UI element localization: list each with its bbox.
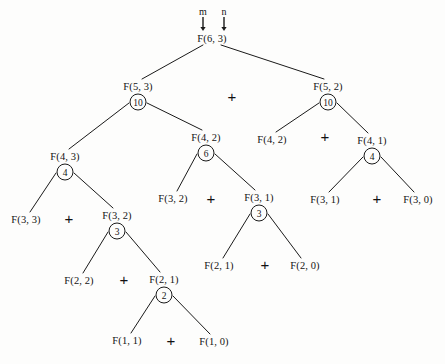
tree-node-label: F(3, 2) [158, 193, 187, 204]
node-value-circle: 10 [130, 94, 147, 111]
tree-node-label: F(3, 0) [403, 194, 432, 205]
n-arrow [221, 17, 226, 31]
tree-node-label: F(2, 2) [64, 275, 93, 286]
node-value-circle: 4 [57, 164, 74, 181]
tree-node-label: F(2, 1) [204, 260, 233, 271]
plus-n6: + [373, 191, 382, 206]
tree-node-label: F(4, 3) [50, 151, 79, 162]
tree-node-label: F(3, 2) [102, 210, 131, 221]
node-value-circle: 4 [364, 148, 381, 165]
tree-node-label: F(4, 2) [257, 134, 286, 145]
tree-node-label: F(5, 2) [313, 81, 342, 92]
plus-n3: + [65, 211, 74, 226]
tree-node-label: F(1, 1) [112, 335, 141, 346]
m-arrow [200, 17, 205, 31]
plus-n2: + [321, 129, 330, 144]
recursion-tree-diagram: mn F(6, 3)F(5, 3)10F(5, 2)10F(4, 3)4F(4,… [0, 0, 445, 364]
tree-node-label: F(3, 3) [11, 214, 40, 225]
plus-n10: + [261, 257, 270, 272]
node-value-circle: 3 [109, 223, 126, 240]
node-value-circle: 10 [320, 94, 337, 111]
arrow-svg-layer [0, 0, 445, 364]
tree-node-label: F(4, 2) [191, 132, 220, 143]
tree-node-label: F(5, 3) [123, 81, 152, 92]
plus-n14: + [167, 333, 176, 348]
node-value-circle: 2 [156, 287, 173, 304]
node-value-circle: 6 [198, 145, 215, 162]
tree-node-label: F(4, 1) [357, 135, 386, 146]
tree-node-label: F(2, 0) [290, 260, 319, 271]
plus-n8: + [120, 272, 129, 287]
tree-node-label: F(3, 1) [310, 194, 339, 205]
tree-node-label: F(3, 1) [244, 192, 273, 203]
tree-node-label: F(1, 0) [199, 336, 228, 347]
node-value-circle: 3 [251, 205, 268, 222]
tree-node-label: F(6, 3) [197, 33, 226, 44]
plus-n1: + [207, 191, 216, 206]
plus-root: + [228, 89, 237, 104]
tree-node-label: F(2, 1) [149, 274, 178, 285]
